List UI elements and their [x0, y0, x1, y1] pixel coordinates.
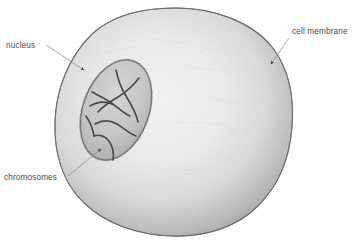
label-nucleus: nucleus [6, 41, 35, 50]
label-cell-membrane: cell membrane [292, 27, 348, 36]
label-chromosomes: chromosomes [4, 173, 57, 182]
cell-diagram-canvas: nucleus chromosomes cell membrane [0, 0, 354, 244]
cell-diagram: nucleus chromosomes cell membrane [0, 0, 354, 244]
